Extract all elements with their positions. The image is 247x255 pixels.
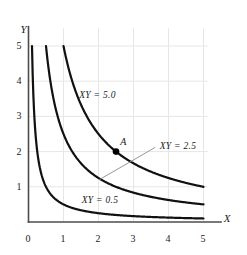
point-marker-a	[113, 148, 120, 155]
x-tick-label-1: 1	[61, 234, 66, 244]
x-tick-label-2: 2	[96, 234, 101, 244]
curve-label-1: XY = 5.0	[79, 91, 116, 101]
curve-label-3: XY = 0.5	[82, 196, 119, 206]
leader-line	[99, 147, 155, 179]
y-tick-label-5: 5	[17, 41, 22, 51]
curve-3	[32, 46, 204, 218]
y-tick-label-4: 4	[17, 76, 22, 86]
x-tick-label-3: 3	[131, 234, 136, 244]
x-tick-label-0: 0	[26, 234, 31, 244]
x-tick-label-4: 4	[166, 234, 171, 244]
leader-lines	[99, 147, 155, 179]
figure-container: 01234512345YXXY = 5.0XY = 2.5XY = 0.5A	[0, 0, 247, 255]
y-axis-label: Y	[21, 24, 27, 35]
y-tick-label-3: 3	[17, 111, 22, 121]
x-axis-label: X	[224, 213, 231, 224]
curve-paths	[32, 46, 204, 218]
data-point-markers	[113, 148, 120, 155]
gridlines	[29, 28, 208, 222]
plot-area	[0, 0, 247, 255]
annotation-label-a: A	[120, 137, 126, 147]
y-tick-label-1: 1	[17, 182, 22, 192]
x-tick-label-5: 5	[201, 234, 206, 244]
curve-label-2: XY = 2.5	[160, 142, 197, 152]
axis-lines	[29, 27, 222, 222]
y-tick-label-2: 2	[17, 147, 22, 157]
